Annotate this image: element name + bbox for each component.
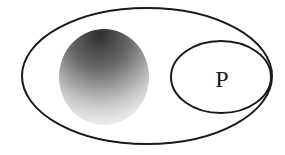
set-diagram: P <box>0 0 285 155</box>
set-p-label: P <box>215 66 228 92</box>
shaded-circle <box>59 29 149 125</box>
